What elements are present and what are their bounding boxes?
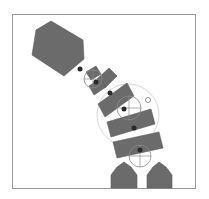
neck-gizmo[interactable]	[84, 70, 102, 88]
spine-gizmo[interactable]	[117, 96, 141, 120]
spine-joint-5-icon[interactable]	[138, 148, 143, 153]
simulation-canvas[interactable]	[0, 0, 209, 199]
head-block[interactable]	[32, 21, 84, 76]
target-marker[interactable]	[146, 98, 151, 103]
spine-joint-3-icon[interactable]	[122, 107, 127, 112]
spine-joint-2-icon[interactable]	[108, 91, 113, 96]
left-foot[interactable]	[111, 162, 137, 188]
spine-joint-4-icon[interactable]	[132, 126, 137, 131]
spine-joint-1-icon[interactable]	[94, 80, 99, 85]
neck-joint-icon[interactable]	[78, 67, 83, 72]
markers	[146, 98, 151, 103]
segment-3[interactable]	[107, 109, 155, 137]
right-foot[interactable]	[147, 162, 172, 188]
rigid-bodies	[32, 21, 172, 188]
